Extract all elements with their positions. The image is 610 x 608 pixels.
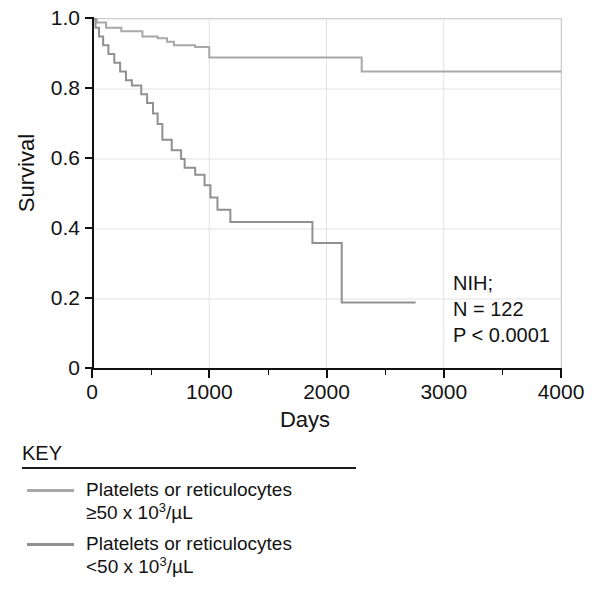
legend-entry-label: Platelets or reticulocytes≥50 x 103/µL	[86, 478, 292, 524]
y-axis-spine	[92, 17, 94, 369]
x-tick-mark	[91, 369, 93, 378]
legend-exponent: 3	[159, 554, 166, 569]
x-tick-mark	[208, 369, 210, 378]
annotation-sample-size: N = 122	[453, 296, 550, 322]
legend-exponent: 3	[159, 500, 166, 515]
x-tick-mark	[560, 369, 562, 378]
legend-entry: Platelets or reticulocytes<50 x 103/µL	[22, 532, 362, 578]
x-tick-label: 3000	[420, 381, 467, 402]
legend-title: KEY	[22, 442, 362, 467]
legend-color-swatch	[27, 489, 74, 492]
x-tick-label: 2000	[303, 381, 350, 402]
x-tick-label: 4000	[538, 381, 585, 402]
y-tick-mark	[85, 157, 94, 159]
y-axis-title: Survival	[16, 113, 38, 233]
legend-entry-line-2: <50 x 103/µL	[86, 555, 292, 578]
legend-divider	[22, 467, 356, 469]
annotation-p-value: P < 0.0001	[453, 322, 550, 348]
x-tick-label: 0	[86, 381, 98, 402]
y-tick-mark	[85, 297, 94, 299]
survival-chart-figure: 00.20.40.60.81.0 01000200030004000 Survi…	[0, 0, 610, 608]
legend-entry-label: Platelets or reticulocytes<50 x 103/µL	[86, 532, 292, 578]
legend-entry: Platelets or reticulocytes≥50 x 103/µL	[22, 478, 362, 524]
x-tick-label: 1000	[186, 381, 233, 402]
statistics-annotation: NIH; N = 122 P < 0.0001	[453, 270, 550, 348]
annotation-cohort: NIH;	[453, 270, 550, 296]
y-tick-label: 0	[28, 357, 80, 378]
legend-entry-line-1: Platelets or reticulocytes	[86, 532, 292, 555]
x-tick-minor-mark	[268, 369, 269, 375]
x-tick-minor-mark	[385, 369, 386, 375]
y-tick-mark	[85, 227, 94, 229]
y-tick-label: 0.8	[28, 77, 80, 98]
y-tick-mark	[85, 87, 94, 89]
x-tick-mark	[326, 369, 328, 378]
y-tick-label: 1.0	[28, 7, 80, 28]
legend: KEY Platelets or reticulocytes≥50 x 103/…	[22, 442, 362, 586]
y-tick-label: 0.2	[28, 287, 80, 308]
legend-color-swatch	[27, 543, 74, 546]
legend-entries: Platelets or reticulocytes≥50 x 103/µLPl…	[22, 478, 362, 578]
legend-entry-line-2: ≥50 x 103/µL	[86, 501, 292, 524]
survival-curve-2	[92, 19, 416, 303]
legend-entry-line-1: Platelets or reticulocytes	[86, 478, 292, 501]
x-axis-title: Days	[0, 409, 610, 431]
x-tick-mark	[443, 369, 445, 378]
x-tick-minor-mark	[502, 369, 503, 375]
x-tick-minor-mark	[151, 369, 152, 375]
y-tick-mark	[85, 17, 94, 19]
